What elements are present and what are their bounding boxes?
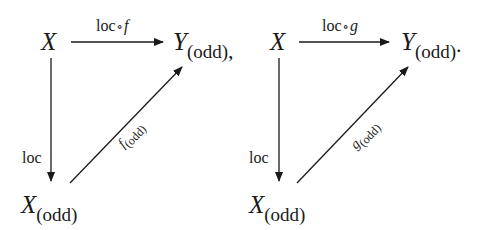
symbol-x: X (270, 28, 285, 55)
arrow-diagonal-right (297, 67, 408, 183)
node-x-odd-left: X(odd) (21, 192, 77, 217)
label-loc: loc (249, 149, 269, 166)
subscript-odd: (odd) (415, 41, 456, 62)
symbol-y: Y (401, 28, 415, 55)
arrow-diagonal-left (70, 67, 182, 183)
subscript-odd: (odd) (264, 204, 305, 225)
map-f: f (124, 17, 128, 34)
subscript-odd: (odd) (36, 204, 77, 225)
comma: , (228, 38, 234, 63)
label-loc: loc (96, 17, 116, 34)
symbol-y: Y (173, 28, 187, 55)
compose-symbol: ∘ (117, 19, 123, 34)
subscript-odd: (odd) (187, 41, 228, 62)
node-x-right: X (270, 29, 285, 54)
node-y-odd-right: Y(odd). (401, 29, 462, 54)
label-loc-compose-f: loc∘f (96, 18, 128, 34)
compose-symbol: ∘ (343, 19, 349, 34)
node-y-odd-left: Y(odd), (173, 29, 234, 54)
symbol-x: X (21, 191, 36, 218)
symbol-x: X (249, 191, 264, 218)
label-loc-vertical-right: loc (249, 150, 269, 166)
label-loc-compose-g: loc∘g (322, 18, 358, 34)
label-loc-vertical-left: loc (22, 150, 42, 166)
label-loc: loc (322, 17, 342, 34)
period: . (456, 32, 462, 57)
node-x-odd-right: X(odd) (249, 192, 305, 217)
node-x-left: X (41, 29, 56, 54)
symbol-x: X (41, 28, 56, 55)
label-loc: loc (22, 149, 42, 166)
map-g: g (350, 17, 358, 34)
